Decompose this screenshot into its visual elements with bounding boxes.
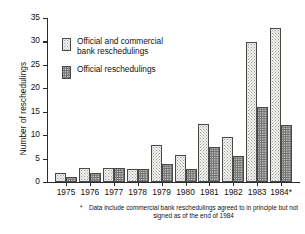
bar-official [209, 147, 220, 182]
x-axis-tick [114, 182, 115, 186]
y-axis-tick-label: 0 [20, 176, 40, 187]
bar-official-and-commercial [175, 155, 186, 182]
bar-official-and-commercial [246, 42, 257, 182]
light-stipple-swatch-icon [62, 38, 71, 51]
bar-official-and-commercial [79, 168, 90, 182]
bar-official [162, 164, 173, 182]
bar-official-and-commercial [270, 28, 281, 182]
bar-official [281, 125, 292, 182]
bar-group [198, 18, 220, 182]
x-axis-tick [90, 182, 91, 186]
y-axis-tick-label: 35 [20, 12, 40, 23]
bar-official [114, 168, 125, 182]
bar-official [66, 177, 77, 182]
x-axis-tick-label: 1984* [261, 187, 301, 197]
bar-official [186, 169, 197, 182]
bar-official-and-commercial [127, 169, 138, 182]
x-axis-tick [186, 182, 187, 186]
footnote: * Data include commercial bank reschedul… [86, 204, 301, 221]
x-axis-line [47, 182, 300, 183]
legend-label: Official reschedulings [77, 65, 156, 75]
bar-official [257, 107, 268, 182]
footnote-marker: * [80, 204, 83, 212]
legend-item-official: Official reschedulings [62, 65, 163, 79]
legend-item-official-and-commercial: Official and commercial bank reschedulin… [62, 37, 163, 56]
bar-official-and-commercial [151, 145, 162, 182]
x-axis-tick [233, 182, 234, 186]
legend: Official and commercial bank reschedulin… [62, 37, 163, 88]
dark-stipple-swatch-icon [62, 66, 71, 79]
footnote-text: Data include commercial bank reschedulin… [89, 204, 298, 219]
x-axis-tick [257, 182, 258, 186]
bar-group [175, 18, 197, 182]
x-axis-tick [281, 182, 282, 186]
bar-group [246, 18, 268, 182]
y-axis-tick-label: 20 [20, 82, 40, 93]
bar-group [222, 18, 244, 182]
bar-official-and-commercial [198, 124, 209, 182]
bar-official-and-commercial [55, 173, 66, 182]
y-axis-tick-label: 5 [20, 153, 40, 164]
bar-group [270, 18, 292, 182]
y-axis-tick: 0 [43, 182, 47, 183]
x-axis-tick [138, 182, 139, 186]
rescheduling-bar-chart: Number of reschedulings 05101520253035 1… [0, 0, 305, 234]
bar-official-and-commercial [103, 168, 114, 182]
y-axis-tick-label: 15 [20, 106, 40, 117]
y-axis-tick-label: 10 [20, 129, 40, 140]
y-axis-tick-label: 25 [20, 59, 40, 70]
x-axis-tick [66, 182, 67, 186]
bar-official [233, 156, 244, 182]
bar-official [138, 169, 149, 182]
x-axis-tick [209, 182, 210, 186]
bar-official [90, 173, 101, 182]
y-axis-tick-label: 30 [20, 35, 40, 46]
x-axis-tick [162, 182, 163, 186]
bar-official-and-commercial [222, 137, 233, 182]
legend-label: Official and commercial bank reschedulin… [77, 37, 163, 56]
